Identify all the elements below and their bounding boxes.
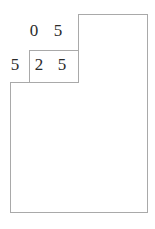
digit-bottom-row-1: 2 xyxy=(32,56,46,73)
digit-top-row-1: 5 xyxy=(51,22,65,39)
digit-top-row-0: 0 xyxy=(27,22,41,39)
digit-bottom-row-0: 5 xyxy=(8,56,22,73)
digit-bottom-row-2: 5 xyxy=(55,56,69,73)
figure-canvas: 0 5 5 2 5 xyxy=(0,0,155,229)
outline-strokes xyxy=(10,14,147,212)
figure-outline-drawing xyxy=(0,0,155,229)
